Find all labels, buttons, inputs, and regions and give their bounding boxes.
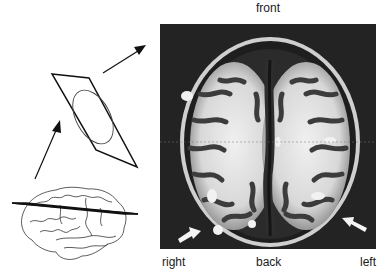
label-back: back — [256, 255, 281, 269]
label-left: left — [360, 255, 376, 269]
label-right: right — [162, 255, 185, 269]
arrow-right-icon — [103, 45, 146, 73]
mri-axial-image — [160, 24, 376, 249]
slice-diagram — [0, 0, 160, 278]
label-front: front — [256, 1, 280, 15]
arrow-up-icon — [35, 120, 61, 179]
brain-outline-icon — [21, 187, 126, 259]
tilted-slice-icon — [52, 74, 137, 167]
